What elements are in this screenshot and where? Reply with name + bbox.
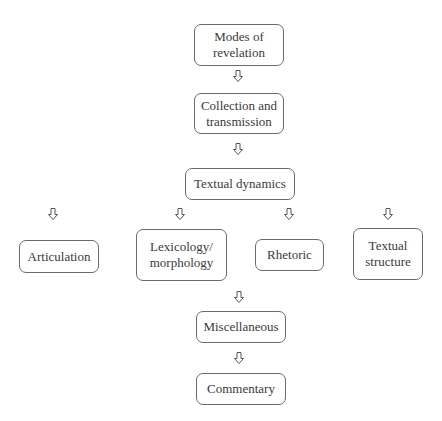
down-arrow-icon bbox=[383, 208, 393, 220]
node-articulation: Articulation bbox=[19, 240, 99, 273]
node-label-line: Textual dynamics bbox=[194, 176, 286, 192]
node-label-line: morphology bbox=[150, 255, 214, 271]
node-label-line: Collection and bbox=[201, 98, 277, 114]
down-arrow-icon bbox=[284, 208, 294, 220]
node-lexicology-morphology: Lexicology/morphology bbox=[136, 229, 227, 281]
down-arrow-icon bbox=[175, 208, 185, 220]
node-label-line: Textual bbox=[365, 238, 410, 254]
node-label-line: Commentary bbox=[207, 381, 275, 397]
node-label-line: Miscellaneous bbox=[203, 319, 278, 335]
node-label-line: transmission bbox=[201, 114, 277, 130]
node-textual-dynamics: Textual dynamics bbox=[185, 168, 295, 200]
node-label-line: Lexicology/ bbox=[150, 239, 214, 255]
down-arrow-icon bbox=[234, 352, 244, 364]
node-label-line: structure bbox=[365, 254, 410, 270]
node-label-line: Modes of bbox=[213, 29, 265, 45]
node-label-line: revelation bbox=[213, 45, 265, 61]
node-rhetoric: Rhetoric bbox=[255, 239, 324, 271]
down-arrow-icon bbox=[233, 143, 243, 155]
node-label-line: Articulation bbox=[28, 249, 91, 265]
node-commentary: Commentary bbox=[196, 373, 286, 405]
down-arrow-icon bbox=[48, 208, 58, 220]
node-collection-and-transmission: Collection andtransmission bbox=[194, 93, 284, 134]
node-miscellaneous: Miscellaneous bbox=[196, 311, 286, 343]
node-modes-of-revelation: Modes ofrevelation bbox=[194, 24, 284, 66]
down-arrow-icon bbox=[233, 70, 243, 82]
node-textual-structure: Textualstructure bbox=[353, 228, 423, 280]
down-arrow-icon bbox=[234, 291, 244, 303]
node-label-line: Rhetoric bbox=[267, 247, 312, 263]
